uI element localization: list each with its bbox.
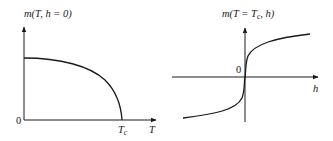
right-x-axis-label: h xyxy=(313,83,318,94)
right-plot-title: m(T = Tc, h) xyxy=(222,8,275,21)
left-origin-label: 0 xyxy=(16,115,21,126)
left-plot-title: m(T, h = 0) xyxy=(24,8,72,20)
left-x-axis-label: T xyxy=(149,124,156,135)
left-plot: m(T, h = 0) 0 Tc T xyxy=(16,8,156,137)
figure-canvas: m(T, h = 0) 0 Tc T m(T = Tc, h) 0 h xyxy=(0,0,333,141)
critical-isotherm-curve xyxy=(183,34,310,118)
tc-tick-label: Tc xyxy=(118,124,128,137)
right-plot: m(T = Tc, h) 0 h xyxy=(172,8,318,122)
left-magnetization-curve xyxy=(24,58,122,120)
right-origin-label: 0 xyxy=(236,64,241,75)
